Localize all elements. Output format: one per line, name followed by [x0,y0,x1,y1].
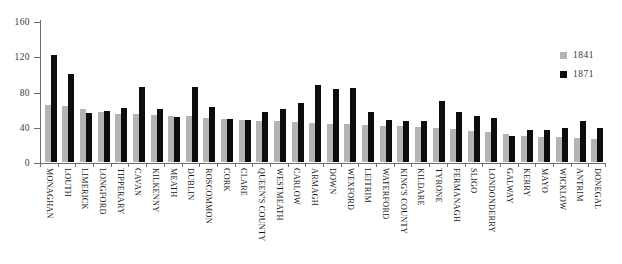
x-axis-label: KERRY [522,168,531,197]
x-tick-mark [128,163,146,167]
x-axis-label: WATERFORD [380,168,389,219]
chart-legend: 1841 1871 [560,50,594,88]
x-tick-mark [465,163,483,167]
x-axis-label: LONGFORD [97,168,106,215]
bar-1871 [121,108,127,162]
x-axis-label-cell: QUEEN'S COUNTY [252,168,270,264]
x-tick-mark [518,163,536,167]
bar-1871 [104,111,110,162]
x-axis-label-cell: LEITRIM [358,168,376,264]
bar-group [60,21,78,162]
bar-group [324,21,342,162]
bar-1871 [368,112,374,162]
x-axis-label: ANTRIM [575,168,584,202]
bar-1871 [580,121,586,162]
x-axis-label-cell: KILDARE [411,168,429,264]
bar-group [447,21,465,162]
bar-1871 [315,85,321,162]
x-tick-mark [270,163,288,167]
legend-label: 1871 [573,69,594,79]
bar-1871 [68,74,74,162]
bar-group [553,21,571,162]
bar-group [395,21,413,162]
x-tick-mark [323,163,341,167]
x-tick-mark [305,163,323,167]
x-tick-mark [553,163,571,167]
bar-1871 [456,112,462,162]
x-axis-label: WESTMEATH [274,168,283,221]
legend-item-1841[interactable]: 1841 [560,50,594,60]
bar-1871 [491,118,497,162]
bar-group [218,21,236,162]
x-axis-label: LOUTH [62,168,71,197]
legend-swatch-icon [560,71,567,78]
x-axis-label-cell: KERRY [518,168,536,264]
bar-group [289,21,307,162]
x-tick-mark [58,163,76,167]
legend-item-1871[interactable]: 1871 [560,69,594,79]
x-tick-mark [358,163,376,167]
bar-group [42,21,60,162]
bar-group [95,21,113,162]
bar-1871 [298,103,304,162]
bar-1871 [86,113,92,162]
x-axis-label-cell: ANTRIM [571,168,589,264]
x-axis-label: FERMANAGH [451,168,460,222]
x-axis-label-cell: DONEGAL [588,168,606,264]
x-axis-label: MONAGHAN [44,168,53,219]
x-axis-label: QUEEN'S COUNTY [257,168,266,241]
x-axis-label: KILKENNY [150,168,159,212]
y-axis: 04080120160 [0,0,40,264]
bar-group [483,21,501,162]
bar-group [77,21,95,162]
x-axis-ticks [40,163,606,167]
y-tick-label: 160 [15,17,30,27]
x-axis-label: LEITRIM [363,168,372,203]
x-axis-label: WICKLOW [557,168,566,210]
bar-1871 [527,130,533,162]
x-tick-mark [482,163,500,167]
x-axis-label: LONDONDERRY [487,168,496,233]
x-tick-mark [111,163,129,167]
bar-group [113,21,131,162]
bar-1871 [192,87,198,162]
x-tick-mark [411,163,429,167]
x-axis-label-cell: WESTMEATH [270,168,288,264]
bar-1871 [280,109,286,162]
x-axis-label-cell: CORK [217,168,235,264]
x-axis-label: GALWAY [504,168,513,204]
x-axis-label: DOWN [327,168,336,194]
x-axis-label: ARMAGH [310,168,319,206]
x-axis-label-cell: MAYO [535,168,553,264]
plot-area [40,22,606,162]
bar-chart: 04080120160 MONAGHANLOUTHLIMERICKLONGFOR… [0,0,622,264]
x-tick-mark [288,163,306,167]
x-axis-label: CORK [221,168,230,192]
x-axis-label: DONEGAL [593,168,602,209]
x-tick-mark [500,163,518,167]
bar-1871 [597,128,603,162]
x-tick-mark [394,163,412,167]
x-axis-label-cell: CLARE [235,168,253,264]
bar-group [359,21,377,162]
x-tick-mark [93,163,111,167]
bar-group [588,21,606,162]
bar-group [377,21,395,162]
x-axis-label-cell: DOWN [323,168,341,264]
bar-group [518,21,536,162]
x-axis-label: ROSCOMMON [204,168,213,224]
bar-group [536,21,554,162]
x-axis-label: CLARE [239,168,248,196]
bar-group [165,21,183,162]
bar-group [306,21,324,162]
x-axis-label-cell: KILKENNY [146,168,164,264]
x-tick-mark [182,163,200,167]
bar-group [412,21,430,162]
bar-1871 [245,120,251,162]
bar-1871 [157,109,163,162]
bar-1871 [350,88,356,162]
legend-swatch-icon [560,52,567,59]
x-tick-mark [341,163,359,167]
x-axis-label: KING'S COUNTY [398,168,407,234]
y-tick-label: 80 [20,88,30,98]
